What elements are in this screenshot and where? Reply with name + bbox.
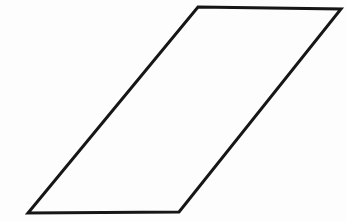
figure-canvas <box>0 0 346 222</box>
parallelogram-drawing <box>0 0 346 222</box>
parallelogram-shape <box>28 7 341 213</box>
